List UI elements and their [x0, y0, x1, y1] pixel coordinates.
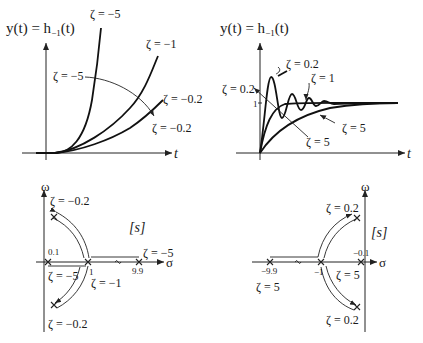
label-zeta-02-top: ζ = 0.2	[326, 201, 359, 215]
level-one-tick: 1	[253, 99, 258, 109]
root-locus-unstable: ω σ [s] 0.1 1 9.9 ζ = −0.2 ζ = −0.2 ζ = …	[36, 179, 174, 332]
t-axis-label: t	[174, 146, 179, 161]
label-zeta-m1: ζ = −1	[146, 37, 177, 51]
s-plane-label: [s]	[371, 225, 387, 240]
plot-stable-step-response: y(t) = h−1(t) t 1 ζ = 0.2 ζ = 1 ζ = 0.2 …	[220, 20, 412, 161]
pole-label-0.1: 0.1	[48, 247, 59, 257]
label-zeta-m1: ζ = −1	[91, 276, 122, 290]
root-locus-stable: ω σ [s] −0.1 −1 −9.9 ζ = 0.2 ζ = 0.2 ζ =…	[252, 179, 387, 332]
label-zeta-5-right: ζ = 5	[336, 268, 360, 282]
label-zeta-5-left: ζ = 5	[256, 280, 280, 294]
plot-title: y(t) = h−1(t)	[220, 20, 289, 38]
label-zeta-m02-bottom: ζ = −0.2	[152, 121, 192, 135]
omega-label: ω	[361, 179, 370, 194]
pole-label-m1: −1	[314, 267, 324, 277]
label-zeta-5-bottom: ζ = 5	[306, 135, 330, 149]
label-zeta-m5-right: ζ = −5	[143, 246, 174, 260]
t-axis-label: t	[407, 146, 412, 161]
pole-label-m9.9: −9.9	[261, 266, 278, 276]
omega-label: ω	[41, 179, 50, 194]
label-zeta-02-left: ζ = 0.2	[222, 82, 255, 96]
label-zeta-m02-top: ζ = −0.2	[50, 194, 90, 208]
label-zeta-m5-left: ζ = −5	[48, 269, 79, 283]
label-zeta-m5-left: ζ = −5	[53, 69, 84, 83]
label-zeta-m5-top: ζ = −5	[90, 7, 121, 21]
pole-markers	[45, 214, 142, 308]
label-zeta-m02-bottom: ζ = −0.2	[48, 317, 88, 331]
label-zeta-02-top: ζ = 0.2	[286, 57, 319, 71]
label-zeta-m02-right: ζ = −0.2	[163, 92, 203, 106]
pole-label-m0.1: −0.1	[353, 248, 369, 258]
label-zeta-02-bottom: ζ = 0.2	[326, 313, 359, 327]
figure-canvas: y(t) = h−1(t) t ζ = −5 ζ = −1 ζ = −5 ζ =…	[0, 0, 423, 343]
pointer-zeta-02-top	[276, 67, 280, 74]
locus-upper-outer	[56, 212, 89, 258]
s-plane-label: [s]	[129, 220, 145, 235]
plot-unstable-step-response: y(t) = h−1(t) t ζ = −5 ζ = −1 ζ = −5 ζ =…	[6, 7, 203, 161]
locus-upper-inner	[324, 219, 356, 258]
label-zeta-5-right: ζ = 5	[342, 121, 366, 135]
sigma-label: σ	[379, 255, 386, 270]
pole-label-9.9: 9.9	[132, 266, 144, 276]
label-zeta-1: ζ = 1	[311, 71, 335, 85]
pointer-zeta-5	[320, 115, 335, 123]
plot-title: y(t) = h−1(t)	[6, 20, 75, 38]
